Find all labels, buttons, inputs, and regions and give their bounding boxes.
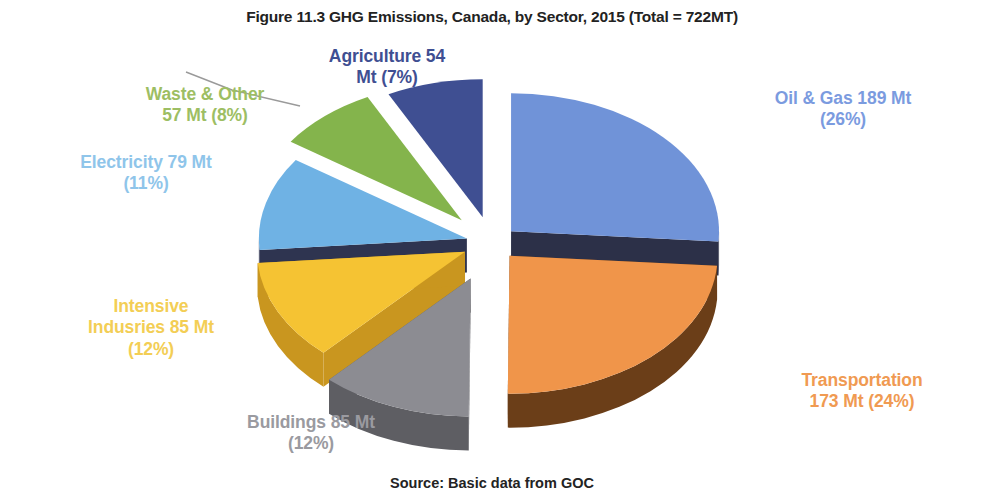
pie-slice-transportation — [508, 256, 717, 394]
slice-label-electricity: Electricity 79 Mt (11%) — [38, 152, 254, 195]
slice-label-waste-other: Waste & Other 57 Mt (8%) — [110, 84, 300, 127]
slice-label-agriculture: Agriculture 54 Mt (7%) — [292, 46, 482, 89]
figure-source-caption: Source: Basic data from GOC — [0, 475, 984, 491]
figure-title: Figure 11.3 GHG Emissions, Canada, by Se… — [0, 8, 984, 26]
slice-label-buildings: Buildings 85 Mt (12%) — [196, 412, 426, 455]
slice-label-transportation: Transportation 173 Mt (24%) — [748, 370, 976, 413]
slice-label-intensive-industries: Intensive Indusries 85 Mt (12%) — [44, 296, 258, 360]
figure-container: Figure 11.3 GHG Emissions, Canada, by Se… — [0, 0, 984, 497]
slice-label-oil-gas: Oil & Gas 189 Mt (26%) — [728, 88, 958, 131]
pie-slice-oil-gas — [511, 93, 719, 241]
